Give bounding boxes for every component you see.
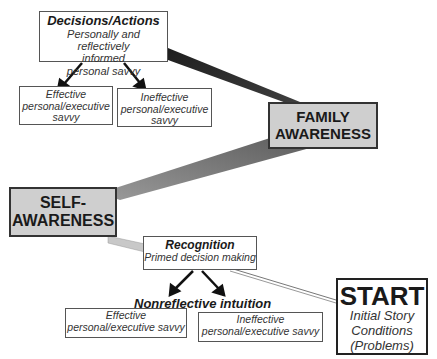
decisions-title: Decisions/Actions: [40, 14, 167, 28]
start-box: START Initial Story Conditions (Problems…: [336, 278, 428, 355]
start-title: START: [338, 283, 426, 309]
family-awareness-box: FAMILY AWARENESS: [268, 102, 378, 149]
ineffective-line3: savvy: [118, 115, 211, 127]
family-line2: AWARENESS: [275, 126, 371, 143]
nr-ineffective-line2: personal/executive savvy: [199, 326, 322, 338]
recognition-subtitle: Primed decision making: [144, 252, 256, 264]
nr-effective-line2: personal/executive savvy: [66, 322, 186, 334]
decisions-line2: informed: [40, 52, 167, 64]
decisions-ineffective-box: Ineffective personal/executive savvy: [117, 88, 212, 127]
start-line2: Conditions: [338, 324, 426, 339]
family-line1: FAMILY: [296, 109, 350, 126]
nr-ineffective-line1: Ineffective: [199, 314, 322, 326]
start-line3: (Problems): [338, 339, 426, 354]
self-line2: AWARENESS: [12, 212, 114, 230]
decisions-line3: personal savvy: [40, 65, 167, 77]
effective-line3: savvy: [20, 112, 112, 124]
recognition-box: Recognition Primed decision making: [143, 236, 257, 270]
ineffective-line1: Ineffective: [118, 92, 211, 104]
self-awareness-box: SELF- AWARENESS: [9, 187, 117, 237]
self-line1: SELF-: [40, 194, 86, 212]
decisions-line1: Personally and reflectively: [40, 28, 167, 52]
start-line1: Initial Story: [338, 309, 426, 324]
band-self-recognition: [108, 236, 145, 252]
decisions-actions-box: Decisions/Actions Personally and reflect…: [39, 11, 168, 62]
effective-line1: Effective: [20, 89, 112, 101]
nonreflective-ineffective-box: Ineffective personal/executive savvy: [198, 312, 323, 342]
decisions-effective-box: Effective personal/executive savvy: [19, 86, 113, 125]
nonreflective-effective-box: Effective personal/executive savvy: [65, 308, 187, 338]
nr-effective-line1: Effective: [66, 310, 186, 322]
